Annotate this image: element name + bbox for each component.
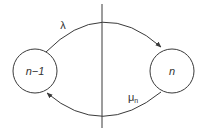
diagram-canvas: n−1 n λ μn — [0, 0, 202, 137]
transition-label-lambda: λ — [60, 19, 66, 31]
birth-death-diagram: n−1 n λ μn — [0, 0, 202, 137]
transition-arrow-mu — [47, 92, 161, 116]
state-n-minus-1: n−1 — [13, 49, 57, 93]
state-label-right: n — [169, 65, 175, 77]
state-label-left: n−1 — [26, 65, 45, 77]
transition-label-mu: μn — [128, 91, 138, 104]
mu-subscript: n — [134, 97, 138, 104]
state-n: n — [150, 49, 194, 93]
